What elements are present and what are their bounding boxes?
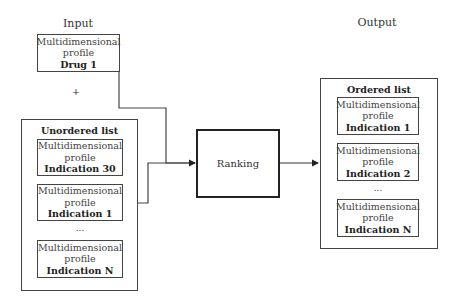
- indication-name: Indication 30: [44, 163, 115, 175]
- profile-line1: Multidimensional: [38, 140, 122, 152]
- profile-line1: Multidimensional: [38, 242, 122, 254]
- output-label: Output: [337, 16, 417, 29]
- unordered-item-indication-n: Multidimensional profile Indication N: [37, 240, 123, 278]
- plus-sign: +: [66, 86, 86, 97]
- ordered-item-indication-1: Multidimensional profile Indication 1: [337, 97, 419, 135]
- profile-line2: profile: [63, 47, 94, 59]
- profile-line2: profile: [362, 110, 393, 122]
- indication-name: Indication 1: [346, 122, 411, 134]
- profile-line2: profile: [362, 156, 393, 168]
- indication-name: Indication N: [345, 224, 412, 236]
- ordered-item-indication-2: Multidimensional profile Indication 2: [337, 143, 419, 181]
- profile-line2: profile: [64, 253, 95, 265]
- ordered-ellipsis: ...: [337, 183, 419, 193]
- profile-line1: Multidimensional: [336, 99, 420, 111]
- profile-line1: Multidimensional: [336, 201, 420, 213]
- drug-profile-box: Multidimensional profile Drug 1: [37, 34, 120, 72]
- indication-name: Indication 2: [346, 168, 411, 180]
- unordered-to-ranking-arrow: [137, 163, 195, 203]
- profile-line2: profile: [64, 197, 95, 209]
- indication-name: Indication 1: [48, 208, 113, 220]
- profile-line2: profile: [362, 212, 393, 224]
- unordered-list-title: Unordered list: [22, 125, 137, 136]
- ranking-box: Ranking: [196, 129, 280, 198]
- indication-name: Indication N: [47, 265, 114, 277]
- ordered-item-indication-n: Multidimensional profile Indication N: [337, 199, 419, 237]
- profile-line2: profile: [64, 152, 95, 164]
- unordered-ellipsis: ...: [37, 223, 123, 233]
- profile-line1: Multidimensional: [336, 145, 420, 157]
- unordered-item-indication-30: Multidimensional profile Indication 30: [37, 139, 123, 176]
- ordered-list-title: Ordered list: [321, 84, 437, 95]
- drug-name: Drug 1: [60, 59, 97, 71]
- profile-line1: Multidimensional: [38, 185, 122, 197]
- profile-line1: Multidimensional: [36, 36, 120, 48]
- ranking-label: Ranking: [217, 158, 259, 169]
- unordered-item-indication-1: Multidimensional profile Indication 1: [37, 184, 123, 221]
- input-label: Input: [38, 17, 118, 30]
